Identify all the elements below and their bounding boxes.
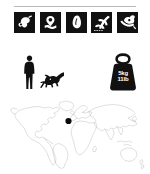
fossil-location-marker	[65, 118, 71, 124]
trait-icon-strip	[14, 12, 138, 34]
world-distribution-map[interactable]	[6, 96, 146, 172]
dinosaur-fact-sheet: 5kg 11lb	[0, 0, 150, 174]
scale-comparison-row: 5kg 11lb	[0, 50, 150, 94]
top-divider	[14, 6, 136, 7]
diet-meat-icon[interactable]	[14, 12, 35, 33]
dinosaur-silhouette	[39, 69, 64, 89]
map-continent-outlines	[11, 101, 145, 169]
excavation-icon[interactable]	[117, 12, 138, 33]
weight-badge: 5kg 11lb	[104, 52, 142, 92]
habitat-icon[interactable]	[40, 12, 61, 33]
egg-nest-icon[interactable]	[66, 12, 87, 33]
fossil-site-icon[interactable]	[91, 12, 112, 33]
human-silhouette	[21, 55, 38, 89]
